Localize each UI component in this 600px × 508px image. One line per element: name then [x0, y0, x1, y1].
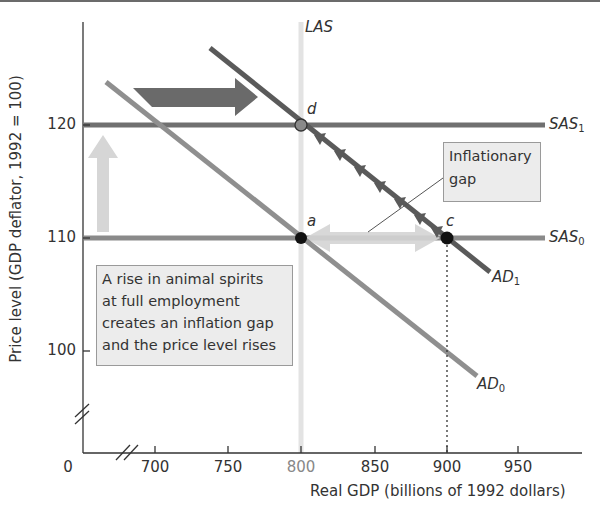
explanation-line-4: and the price level rises [102, 334, 287, 356]
y-ticks [83, 125, 90, 351]
gap-box-line-1: Inflationary [449, 145, 535, 168]
x-tick-900: 900 [433, 458, 462, 476]
point-a [295, 232, 307, 244]
sas0-label: SAS0 [549, 228, 585, 247]
y-tick-100: 100 [36, 341, 76, 359]
x-tick-850: 850 [361, 458, 390, 476]
point-c-label: c [446, 212, 454, 230]
x-axis-label: Real GDP (billions of 1992 dollars) [310, 482, 566, 500]
point-d-label: d [307, 100, 317, 118]
x-tick-750: 750 [214, 458, 243, 476]
explanation-box: A rise in animal spirits at full employm… [96, 265, 293, 366]
chart-canvas [0, 0, 600, 508]
x-tick-700: 700 [141, 458, 170, 476]
point-d [295, 119, 307, 131]
ad-as-diagram: Price level (GDP deflator, 1992 = 100) R… [0, 0, 600, 508]
ad-shift-arrow [133, 78, 258, 116]
x-origin-label: 0 [63, 458, 73, 476]
y-tick-110: 110 [36, 228, 76, 246]
y-axis-break [75, 404, 89, 424]
inflationary-gap-box: Inflationary gap [443, 142, 541, 202]
x-tick-950: 950 [504, 458, 533, 476]
y-axis-label: Price level (GDP deflator, 1992 = 100) [7, 69, 25, 369]
gap-box-line-2: gap [449, 168, 535, 191]
explanation-line-2: at full employment [102, 290, 287, 312]
las-label: LAS [305, 18, 333, 36]
explanation-line-3: creates an inflation gap [102, 312, 287, 334]
explanation-line-1: A rise in animal spirits [102, 268, 287, 290]
sas1-label: SAS1 [549, 115, 585, 134]
point-c [441, 232, 454, 245]
y-tick-120: 120 [36, 115, 76, 133]
price-rise-arrow [88, 135, 118, 232]
ad1-label: AD1 [492, 268, 520, 287]
ad0-label: AD0 [477, 375, 505, 394]
x-tick-800: 800 [287, 458, 316, 476]
point-a-label: a [307, 212, 316, 230]
x-ticks [155, 446, 518, 453]
